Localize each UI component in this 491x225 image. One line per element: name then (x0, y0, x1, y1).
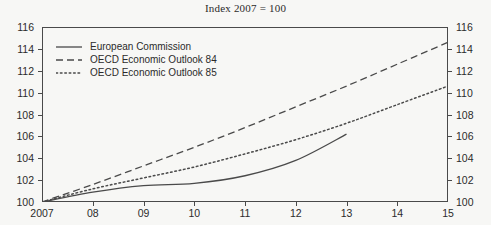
x-axis-tick-label: 13 (341, 208, 353, 219)
x-axis-tick-mark (245, 202, 246, 206)
y-axis-left-tick-label: 112 (2, 66, 34, 77)
x-axis-tick-mark (144, 202, 145, 206)
y-axis-right-tick-mark (448, 49, 452, 50)
y-axis-left-tick-mark (38, 49, 42, 50)
legend-label: OECD Economic Outlook 84 (90, 54, 217, 65)
y-axis-right-tick-mark (448, 93, 452, 94)
y-axis-left-tick-mark (38, 115, 42, 116)
y-axis-left-tick-label: 104 (2, 153, 34, 164)
x-axis-tick-mark (347, 202, 348, 206)
y-axis-left-tick-mark (38, 180, 42, 181)
y-axis-right-tick-label: 102 (456, 175, 488, 186)
y-axis-left-tick-label: 110 (2, 88, 34, 99)
y-axis-right-tick-label: 116 (456, 22, 488, 33)
x-axis-tick-mark (296, 202, 297, 206)
legend-item-0: European Commission (56, 40, 217, 53)
x-axis-tick-mark (194, 202, 195, 206)
series-line-2 (42, 86, 448, 202)
legend-item-2: OECD Economic Outlook 85 (56, 66, 217, 79)
y-axis-right-tick-label: 112 (456, 66, 488, 77)
y-axis-left-tick-mark (38, 93, 42, 94)
y-axis-right-tick-label: 106 (456, 131, 488, 142)
chart-title: Index 2007 = 100 (0, 2, 491, 14)
y-axis-left-tick-mark (38, 136, 42, 137)
y-axis-right-tick-label: 114 (456, 44, 488, 55)
y-axis-right-tick-mark (448, 158, 452, 159)
x-axis-tick-label: 14 (391, 208, 403, 219)
chart-legend: European CommissionOECD Economic Outlook… (56, 40, 217, 79)
y-axis-right-tick-mark (448, 136, 452, 137)
legend-key-dotted (56, 67, 82, 78)
x-axis-tick-label: 15 (442, 208, 454, 219)
x-axis-tick-mark (93, 202, 94, 206)
legend-key-dashed (56, 54, 82, 65)
y-axis-right-tick-label: 100 (456, 197, 488, 208)
x-axis-tick-label: 12 (290, 208, 302, 219)
legend-label: OECD Economic Outlook 85 (90, 67, 217, 78)
legend-key-solid (56, 41, 82, 52)
x-axis-tick-mark (397, 202, 398, 206)
y-axis-left-tick-label: 108 (2, 110, 34, 121)
y-axis-right-tick-mark (448, 71, 452, 72)
x-axis-tick-label: 09 (138, 208, 150, 219)
y-axis-right-tick-mark (448, 180, 452, 181)
y-axis-left-tick-mark (38, 71, 42, 72)
y-axis-left-tick-label: 116 (2, 22, 34, 33)
legend-item-1: OECD Economic Outlook 84 (56, 53, 217, 66)
y-axis-right-tick-mark (448, 115, 452, 116)
y-axis-right-tick-label: 110 (456, 88, 488, 99)
legend-label: European Commission (90, 41, 191, 52)
x-axis-tick-label: 10 (188, 208, 200, 219)
y-axis-left-tick-mark (38, 158, 42, 159)
y-axis-left-tick-label: 114 (2, 44, 34, 55)
y-axis-left-tick-label: 102 (2, 175, 34, 186)
y-axis-right-tick-label: 104 (456, 153, 488, 164)
y-axis-left-tick-label: 100 (2, 197, 34, 208)
x-axis-tick-label: 11 (240, 208, 251, 219)
y-axis-left-tick-label: 106 (2, 131, 34, 142)
y-axis-right-tick-label: 108 (456, 110, 488, 121)
series-line-0 (42, 134, 347, 202)
x-axis-tick-label: 08 (87, 208, 99, 219)
x-axis-tick-label: 2007 (30, 208, 53, 219)
